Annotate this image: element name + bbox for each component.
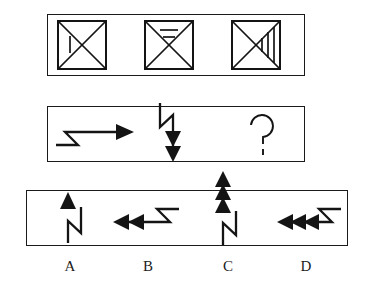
option-label-a: A bbox=[55, 258, 85, 275]
arrowhead bbox=[215, 171, 231, 187]
arrowhead bbox=[128, 214, 144, 230]
question-sequence-panel bbox=[47, 106, 305, 162]
arrowhead bbox=[60, 192, 76, 209]
answer-options-panel bbox=[26, 190, 348, 246]
arrowhead bbox=[116, 124, 134, 140]
arrowhead bbox=[165, 146, 181, 162]
figure-1-square bbox=[57, 20, 107, 70]
sequence-item-3 bbox=[220, 107, 306, 161]
sequence-item-1 bbox=[52, 107, 138, 161]
arrowhead bbox=[165, 131, 181, 147]
analogy-figures-panel bbox=[47, 14, 305, 76]
sequence-item-2 bbox=[134, 107, 220, 161]
option-b[interactable] bbox=[107, 191, 187, 245]
puzzle-canvas: A B C D bbox=[0, 0, 372, 298]
option-a[interactable] bbox=[27, 191, 107, 245]
option-label-b: B bbox=[133, 258, 163, 275]
arrowhead bbox=[113, 214, 129, 230]
option-label-c: C bbox=[213, 258, 243, 275]
figure-2-square bbox=[144, 20, 194, 70]
figure-3-square bbox=[231, 20, 281, 70]
question-mark bbox=[246, 111, 280, 157]
option-c[interactable] bbox=[187, 191, 267, 245]
option-label-d: D bbox=[291, 258, 321, 275]
option-d[interactable] bbox=[267, 191, 349, 245]
